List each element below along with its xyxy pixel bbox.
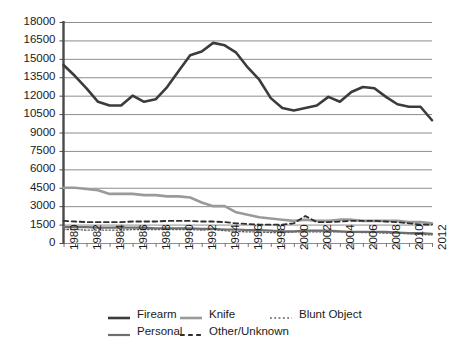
legend-label-firearm: Firearm	[137, 308, 177, 320]
x-axis-tick-label: 1980	[69, 224, 80, 250]
x-axis-tick-label: 2004	[345, 224, 356, 250]
legend-label-other-unknown: Other/Unknown	[209, 325, 289, 337]
x-axis-tick-label: 1982	[92, 224, 103, 250]
y-axis-tick-label: 0	[0, 237, 56, 248]
x-axis-tick-label: 1990	[184, 224, 195, 250]
y-axis-tick-label: 9000	[0, 127, 56, 138]
legend-swatch-blunt-object-icon	[270, 309, 292, 319]
legend-item-firearm[interactable]: Firearm	[108, 308, 180, 320]
legend-swatch-personal-icon	[108, 326, 130, 336]
y-axis-tick-label: 1500	[0, 219, 56, 230]
x-axis-tick-label: 1994	[230, 224, 241, 250]
x-axis-tick-label: 1992	[207, 224, 218, 250]
x-axis-tick-label: 2008	[391, 224, 402, 250]
y-axis-tick-label: 16500	[0, 34, 56, 45]
x-axis-tick-label: 1998	[276, 224, 287, 250]
legend-item-blunt-object[interactable]: Blunt Object	[270, 308, 390, 320]
y-axis-tick-label: 15000	[0, 53, 56, 64]
chart-plot-area	[0, 0, 456, 351]
x-axis-tick-label: 1986	[138, 224, 149, 250]
x-axis-tick-label: 2006	[368, 224, 379, 250]
legend-swatch-other-unknown-icon	[180, 326, 202, 336]
chart-legend: Firearm Knife Blunt Object Personal Othe…	[108, 305, 408, 339]
y-axis-tick-label: 3000	[0, 200, 56, 211]
y-axis-tick-label: 7500	[0, 145, 56, 156]
y-axis-tick-label: 12000	[0, 90, 56, 101]
series-line-firearm	[64, 43, 433, 120]
y-axis-tick-label: 6000	[0, 163, 56, 174]
x-axis-tick-label: 1984	[115, 224, 126, 250]
x-axis-tick-label: 1996	[253, 224, 264, 250]
legend-row: Personal Other/Unknown	[108, 322, 408, 339]
x-axis-tick-label: 2010	[414, 224, 425, 250]
legend-swatch-firearm-icon	[108, 309, 130, 319]
legend-swatch-knife-icon	[180, 309, 202, 319]
x-axis-tick-label: 2012	[437, 224, 448, 250]
y-axis-tick-label: 10500	[0, 108, 56, 119]
x-axis-tick-label: 2002	[322, 224, 333, 250]
line-chart: 1800016500150001350012000105009000750060…	[0, 0, 456, 351]
legend-label-personal: Personal	[137, 325, 182, 337]
series-line-knife	[64, 188, 433, 224]
legend-row: Firearm Knife Blunt Object	[108, 305, 408, 322]
x-axis-tick-label: 2000	[299, 224, 310, 250]
y-axis-tick-label: 18000	[0, 16, 56, 27]
legend-item-knife[interactable]: Knife	[180, 308, 270, 320]
legend-item-personal[interactable]: Personal	[108, 325, 180, 337]
legend-label-knife: Knife	[209, 308, 235, 320]
y-axis-tick-label: 13500	[0, 71, 56, 82]
legend-item-other-unknown[interactable]: Other/Unknown	[180, 325, 310, 337]
legend-label-blunt-object: Blunt Object	[299, 308, 362, 320]
y-axis-tick-label: 4500	[0, 182, 56, 193]
x-axis-tick-label: 1988	[161, 224, 172, 250]
